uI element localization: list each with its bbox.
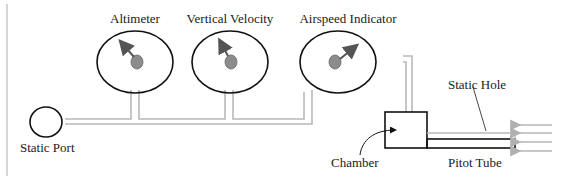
pitot-tube-label: Pitot Tube — [448, 155, 502, 170]
pitot-tube — [427, 133, 515, 148]
gauge-needle-icon — [220, 41, 228, 56]
vertical-velocity-label: Vertical Velocity — [187, 11, 274, 26]
airspeed-indicator-label: Airspeed Indicator — [299, 11, 397, 26]
gauge-needle-icon — [121, 42, 134, 57]
airflow-arrows-icon — [520, 125, 552, 151]
pitot-static-diagram: Static Port Altimeter Vertical Velocity … — [0, 0, 569, 178]
altimeter-label: Altimeter — [110, 11, 160, 26]
altimeter-gauge: Altimeter — [97, 11, 173, 93]
chamber-pointer-icon — [360, 130, 395, 155]
static-port-label: Static Port — [20, 140, 75, 155]
gauge-hub-icon — [329, 55, 341, 69]
static-port — [30, 107, 62, 137]
gauge-needle-icon — [340, 46, 356, 59]
gauge-hub-icon — [225, 55, 237, 69]
static-hole-label: Static Hole — [448, 77, 506, 92]
airspeed-indicator-gauge: Airspeed Indicator — [299, 11, 397, 93]
vertical-velocity-gauge: Vertical Velocity — [187, 11, 274, 93]
chamber-label: Chamber — [331, 155, 379, 170]
static-hole-pointer — [473, 87, 486, 131]
